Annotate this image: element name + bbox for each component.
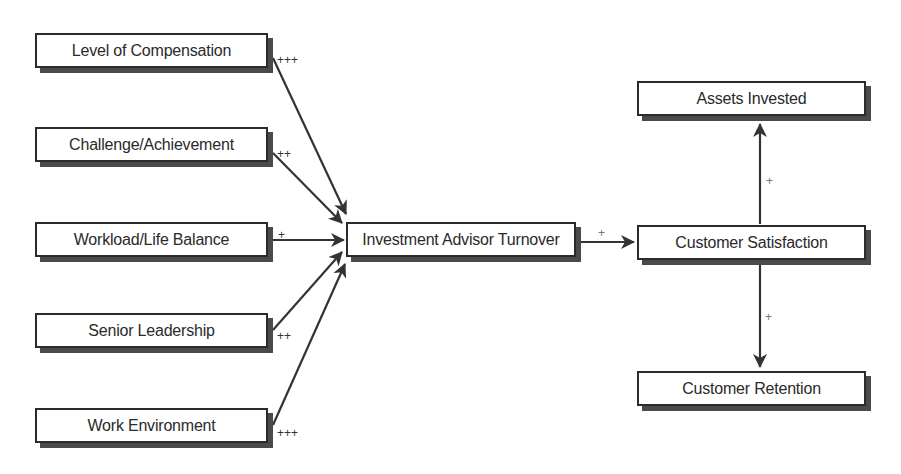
effect-label-turnover-to-satisfaction: + [598, 227, 605, 239]
effect-label-satisfaction-to-assets: + [766, 175, 773, 187]
driver-label: Challenge/Achievement [69, 136, 234, 154]
effect-label-compensation: +++ [277, 54, 298, 66]
result-label: Customer Retention [682, 380, 821, 398]
driver-label: Senior Leadership [88, 322, 214, 340]
center-investment-advisor-turnover: Investment Advisor Turnover [346, 222, 576, 257]
driver-challenge-achievement: Challenge/Achievement [35, 127, 268, 162]
result-customer-retention: Customer Retention [637, 371, 866, 406]
outcome-label: Customer Satisfaction [675, 234, 827, 252]
result-assets-invested: Assets Invested [637, 81, 866, 116]
effect-label-workload: + [278, 229, 285, 241]
driver-senior-leadership: Senior Leadership [35, 313, 268, 348]
result-label: Assets Invested [697, 90, 807, 108]
effect-label-leadership: ++ [277, 330, 291, 342]
center-label: Investment Advisor Turnover [362, 231, 559, 249]
effect-label-environment: +++ [277, 427, 298, 439]
effect-label-challenge: ++ [277, 148, 291, 160]
driver-workload-life-balance: Workload/Life Balance [35, 222, 268, 257]
arrow-leadership-to-turnover [273, 252, 342, 330]
outcome-customer-satisfaction: Customer Satisfaction [637, 225, 866, 260]
driver-work-environment: Work Environment [35, 408, 268, 443]
effect-label-satisfaction-to-retention: + [765, 311, 772, 323]
arrow-challenge-to-turnover [273, 153, 342, 223]
driver-label: Work Environment [87, 417, 215, 435]
driver-label: Workload/Life Balance [74, 231, 230, 249]
driver-label: Level of Compensation [72, 42, 231, 60]
driver-level-of-compensation: Level of Compensation [35, 33, 268, 68]
